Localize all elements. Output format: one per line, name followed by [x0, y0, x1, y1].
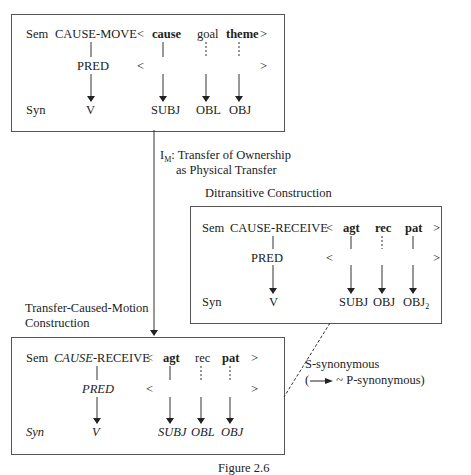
diagram-lines [0, 0, 471, 467]
